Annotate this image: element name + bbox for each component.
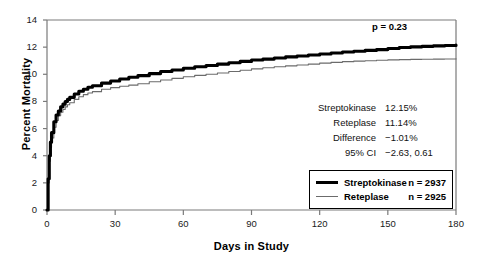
x-axis-title: Days in Study: [47, 240, 456, 252]
x-tick-label: 0: [27, 218, 67, 229]
legend-swatch-streptokinase-icon: [316, 181, 338, 184]
legend-item-reteplase: Reteplase n = 2925: [316, 189, 446, 203]
statistic-row: 95% CI−2.63, 0.61: [318, 145, 433, 160]
y-tick-label: 12: [13, 41, 37, 52]
y-tick-label: 14: [13, 14, 37, 25]
legend-label-streptokinase: Streptokinase: [344, 177, 408, 188]
statistic-value: −2.63, 0.61: [385, 145, 433, 160]
summary-statistics-block: Streptokinase12.15%Reteplase11.14%Differ…: [318, 100, 458, 160]
x-tick-label: 60: [163, 218, 203, 229]
x-tick-label: 30: [95, 218, 135, 229]
statistic-label: 95% CI: [318, 145, 385, 160]
x-tick-label: 90: [232, 218, 272, 229]
legend-n-reteplase: n = 2925: [408, 191, 446, 202]
legend-item-streptokinase: Streptokinase n = 2937: [316, 175, 446, 189]
x-tick-label: 120: [300, 218, 340, 229]
statistic-label: Difference: [318, 130, 385, 145]
statistic-label: Reteplase: [318, 115, 385, 130]
statistic-value: 11.14%: [385, 115, 433, 130]
statistic-row: Reteplase11.14%: [318, 115, 433, 130]
statistic-row: Streptokinase12.15%: [318, 100, 433, 115]
statistic-value: −1.01%: [385, 130, 433, 145]
y-tick-label: 4: [13, 150, 37, 161]
y-tick-label: 0: [13, 204, 37, 215]
x-tick-label: 180: [436, 218, 476, 229]
summary-statistics-table: Streptokinase12.15%Reteplase11.14%Differ…: [318, 100, 433, 160]
y-tick-label: 8: [13, 95, 37, 106]
statistic-value: 12.15%: [385, 100, 433, 115]
x-tick-label: 150: [368, 218, 408, 229]
y-tick-label: 2: [13, 177, 37, 188]
x-tick-marks: [47, 210, 456, 215]
kaplan-meier-mortality-chart: Percent Mortality Days in Study 02468101…: [0, 0, 491, 265]
legend-label-reteplase: Reteplase: [344, 191, 408, 202]
y-tick-label: 10: [13, 68, 37, 79]
p-value-annotation: p = 0.23: [372, 21, 407, 32]
legend-swatch-reteplase-icon: [316, 196, 338, 197]
statistic-row: Difference−1.01%: [318, 130, 433, 145]
legend: Streptokinase n = 2937 Reteplase n = 292…: [309, 170, 453, 209]
statistic-label: Streptokinase: [318, 100, 385, 115]
y-tick-label: 6: [13, 123, 37, 134]
legend-n-streptokinase: n = 2937: [408, 177, 446, 188]
